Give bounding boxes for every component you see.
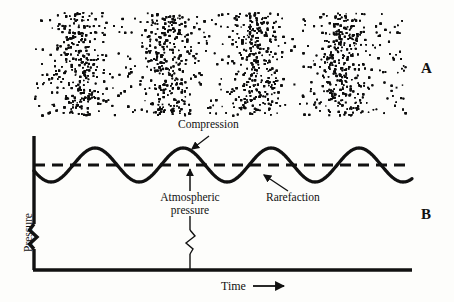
- rarefaction-label: Rarefaction: [266, 191, 320, 204]
- sound-wave-figure: A B Compression Atmospheric pressure Rar…: [0, 0, 454, 302]
- y-axis-title: Pressure: [22, 213, 34, 252]
- atmospheric-pressure-label-line1: Atmospheric: [160, 191, 219, 203]
- atmospheric-pressure-label: Atmospheric pressure: [136, 191, 244, 216]
- figure-canvas: [0, 0, 454, 302]
- rarefaction-leader-line: [264, 175, 288, 191]
- atmospheric-pressure-leader-break-icon: [186, 230, 195, 254]
- atmospheric-pressure-label-line2: pressure: [171, 204, 209, 216]
- compression-leader-line: [192, 136, 209, 149]
- particle-dot-field: [34, 12, 407, 117]
- x-axis-title: Time: [221, 279, 246, 294]
- compression-label: Compression: [178, 118, 239, 131]
- panel-letter-a: A: [421, 60, 432, 77]
- panel-letter-b: B: [421, 206, 432, 223]
